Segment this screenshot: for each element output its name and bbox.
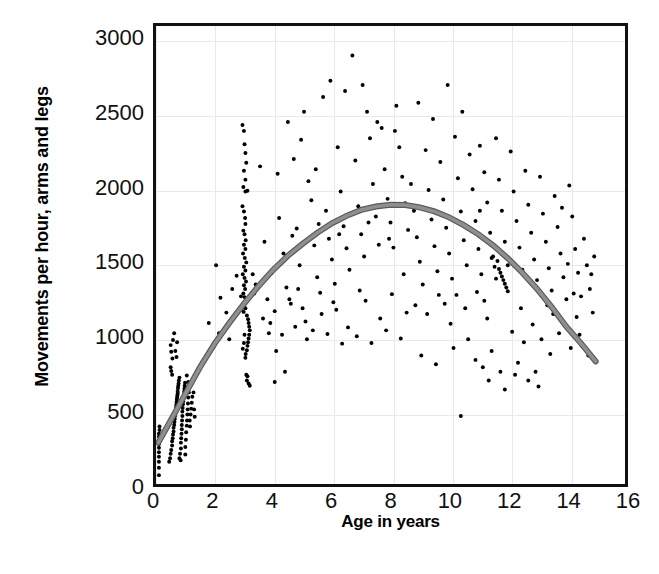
scatter-point (450, 277, 454, 281)
scatter-point (400, 175, 404, 179)
y-tick-label: 0 (40, 476, 144, 498)
scatter-point (476, 247, 480, 251)
scatter-point (169, 343, 173, 347)
scatter-point (510, 330, 514, 334)
scatter-point (207, 321, 211, 325)
scatter-point (471, 187, 475, 191)
scatter-point (463, 306, 467, 310)
scatter-point (339, 189, 343, 193)
scatter-point (487, 379, 491, 383)
scatter-point (453, 135, 457, 139)
scatter-point (183, 452, 187, 456)
scatter-point (157, 446, 161, 450)
scatter-point (167, 460, 171, 464)
scatter-point (497, 178, 501, 182)
y-tick-label: 1500 (40, 251, 144, 273)
scatter-point (244, 161, 248, 165)
plot-area (153, 23, 628, 487)
scatter-point (390, 292, 394, 296)
scatter-point (171, 338, 175, 342)
scatter-point (567, 184, 571, 188)
scatter-point (283, 370, 287, 374)
scatter-point (365, 110, 369, 114)
x-tick-label: 10 (430, 490, 470, 512)
scatter-point (265, 297, 269, 301)
scatter-points (157, 54, 596, 478)
scatter-point (171, 436, 175, 440)
scatter-point (399, 337, 403, 341)
scatter-point (547, 266, 551, 270)
scatter-point (241, 185, 245, 189)
scatter-point (529, 231, 533, 235)
scatter-point (276, 172, 280, 176)
scatter-point (331, 300, 335, 304)
scatter-point (438, 160, 442, 164)
scatter-point (534, 370, 538, 374)
scatter-point (380, 126, 384, 130)
scatter-point (157, 460, 161, 464)
scatter-point (321, 95, 325, 99)
scatter-point (387, 237, 391, 241)
scatter-point (243, 232, 247, 236)
scatter-point (582, 237, 586, 241)
scatter-point (490, 256, 494, 260)
scatter-point (243, 356, 247, 360)
scatter-point (245, 314, 249, 318)
scatter-point (544, 240, 548, 244)
scatter-point (386, 197, 390, 201)
scatter-point (302, 110, 306, 114)
scatter-point (569, 346, 573, 350)
scatter-point (538, 175, 542, 179)
scatter-point (560, 206, 564, 210)
scatter-point (481, 365, 485, 369)
scatter-point (241, 229, 245, 233)
scatter-point (566, 262, 570, 266)
scatter-point (183, 445, 187, 449)
scatter-point (243, 222, 247, 226)
scatter-point (368, 136, 372, 140)
scatter-point (553, 194, 557, 198)
scatter-point (274, 349, 278, 353)
scatter-point (242, 283, 246, 287)
y-tick-label: 1000 (40, 326, 144, 348)
scatter-point (478, 209, 482, 213)
scatter-point (548, 352, 552, 356)
scatter-point (384, 328, 388, 332)
scatter-point (336, 145, 340, 149)
scatter-point (402, 272, 406, 276)
scatter-point (315, 275, 319, 279)
scatter-point (247, 337, 251, 341)
scatter-point (284, 286, 288, 290)
scatter-point (243, 269, 247, 273)
scatter-point (512, 189, 516, 193)
scatter-point (405, 311, 409, 315)
scatter-point (179, 436, 183, 440)
scatter-point (419, 353, 423, 357)
scatter-point (421, 283, 425, 287)
scatter-point (301, 306, 305, 310)
scatter-point (513, 373, 517, 377)
scatter-point (550, 288, 554, 292)
scatter-point (518, 246, 522, 250)
scatter-point (158, 424, 162, 428)
scatter-point (509, 150, 513, 154)
scatter-point (504, 286, 508, 290)
scatter-point (314, 167, 318, 171)
scatter-point (170, 356, 174, 360)
scatter-point (188, 418, 192, 422)
scatter-point (523, 169, 527, 173)
scatter-point (557, 331, 561, 335)
scatter-point (506, 263, 510, 267)
scatter-point (261, 317, 265, 321)
scatter-point (482, 170, 486, 174)
scatter-point (243, 287, 247, 291)
scatter-point (169, 365, 173, 369)
scatter-point (432, 244, 436, 248)
scatter-point (186, 402, 190, 406)
scatter-point (468, 153, 472, 157)
scatter-point (459, 209, 463, 213)
scatter-point (186, 407, 190, 411)
scatter-point (318, 291, 322, 295)
scatter-point (289, 302, 293, 306)
scatter-point (447, 252, 451, 256)
